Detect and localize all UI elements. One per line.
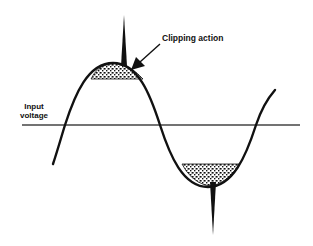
clipping-action-label: Clipping action bbox=[162, 33, 223, 43]
spike-bottom bbox=[210, 182, 216, 235]
clipping-arrow-line bbox=[140, 44, 160, 62]
axis-label-input: Input bbox=[24, 102, 44, 111]
clipping-diagram: Clipping action Input voltage bbox=[0, 0, 313, 246]
axis-label-voltage: voltage bbox=[20, 111, 49, 120]
spike-top bbox=[121, 15, 127, 66]
